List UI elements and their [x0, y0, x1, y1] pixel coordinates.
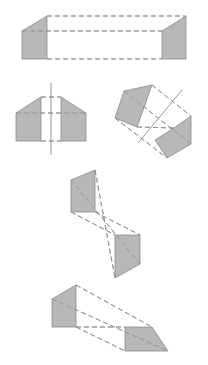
dashed-edge-overlay [71, 212, 115, 235]
dashed-edge-overlay [152, 85, 191, 116]
dashed-edge-overlay [137, 127, 174, 128]
shaded-face [125, 327, 168, 351]
shaded-face [162, 16, 186, 59]
shaded-face [16, 97, 41, 141]
shaded-face [115, 235, 140, 278]
figure-rotated-split-prism [115, 85, 191, 158]
shaded-face [115, 85, 152, 127]
shaded-face [22, 16, 47, 59]
shaded-face [71, 170, 95, 212]
dashed-edge-overlay [71, 180, 140, 264]
figure-long-prism [22, 16, 186, 59]
projection-diagram [0, 0, 208, 365]
dashed-edge-overlay [95, 170, 115, 278]
figure-tapered-prism [52, 285, 168, 351]
dashed-edge-overlay [76, 327, 125, 351]
shaded-face [155, 116, 191, 158]
figure-crossed-projection [71, 170, 140, 278]
shaded-face [52, 285, 76, 327]
shaded-face [61, 97, 86, 141]
figure-split-prism-vertical-axis [16, 83, 86, 155]
dashed-edge-overlay [95, 212, 140, 235]
dashed-edge-overlay [76, 285, 152, 327]
